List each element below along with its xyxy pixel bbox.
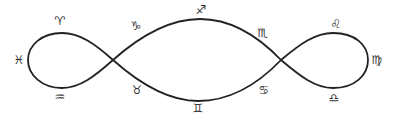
leo-symbol: ♌: [331, 18, 342, 30]
taurus-symbol: ♉: [132, 84, 143, 96]
sagittarius-symbol: ♐: [196, 4, 207, 16]
scorpio-symbol: ♏: [258, 27, 269, 39]
aquarius-symbol: ♒: [55, 91, 66, 103]
libra-symbol: ♎: [329, 92, 340, 104]
capricorn-symbol: ♑: [131, 20, 142, 32]
cancer-symbol: ♋: [259, 84, 270, 96]
aries-symbol: ♈: [55, 15, 66, 27]
gemini-symbol: ♊: [193, 102, 204, 114]
zodiac-diagram: ♓ ♈ ♒ ♑ ♉ ♐ ♊ ♏ ♋ ♌ ♍ ♎: [0, 0, 397, 122]
virgo-symbol: ♍: [372, 54, 383, 66]
pisces-symbol: ♓: [14, 54, 25, 66]
